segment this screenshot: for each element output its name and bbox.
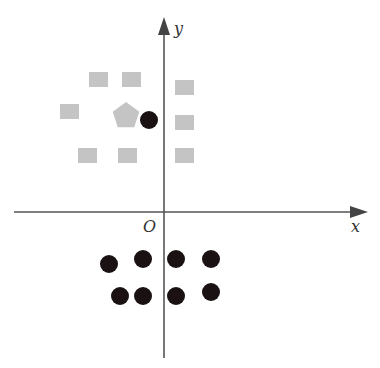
gray-square — [175, 148, 194, 163]
y-axis-arrow-icon — [158, 17, 170, 35]
black-dot — [167, 250, 185, 268]
gray-square — [122, 72, 141, 87]
black-dot — [202, 250, 220, 268]
gray-square — [60, 104, 79, 119]
black-dots-group — [100, 111, 220, 305]
y-axis-label: y — [173, 19, 184, 38]
origin-label: O — [143, 217, 156, 236]
coordinate-plane: y x O — [0, 0, 380, 368]
gray-square — [175, 80, 194, 95]
black-dot — [100, 255, 118, 273]
black-dot — [134, 287, 152, 305]
black-dot — [202, 283, 220, 301]
black-dot — [111, 287, 129, 305]
gray-pentagon — [113, 102, 140, 127]
x-axis-label: x — [351, 217, 360, 236]
gray-square — [118, 148, 137, 163]
black-dot — [140, 111, 158, 129]
black-dot — [167, 287, 185, 305]
gray-square — [89, 72, 108, 87]
black-dot — [134, 250, 152, 268]
gray-square — [78, 148, 97, 163]
gray-square — [175, 115, 194, 130]
